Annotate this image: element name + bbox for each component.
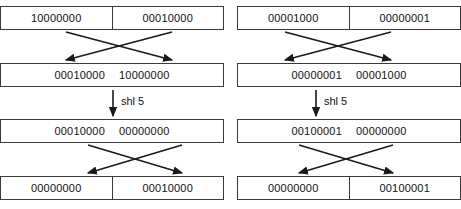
- byte-cell: 00100001: [349, 177, 461, 199]
- byte-word: 00000000: [119, 125, 170, 137]
- byte-cell: 10000000: [1, 7, 112, 29]
- row-after-shift: 00010000 00000000 00100001 00000000: [0, 119, 461, 143]
- byte-cell: 00010000: [112, 7, 224, 29]
- swap-arrows-left-1: [66, 32, 172, 60]
- bit-pattern-diagram: 10000000 00010000 00001000 00000001 0001…: [0, 0, 461, 209]
- byte-word: 00010000: [54, 125, 105, 137]
- row-initial-operands: 10000000 00010000 00001000 00000001: [0, 6, 461, 30]
- left-group-row4: 00000000 00010000: [0, 176, 224, 200]
- swap-arrows-right-2: [299, 145, 393, 173]
- byte-cell: 00000000: [1, 177, 112, 199]
- swap-arrows-right-1: [285, 32, 391, 60]
- swap-arrows-left-2: [88, 145, 182, 173]
- byte-word: 00010000: [54, 69, 105, 81]
- byte-word: 00001000: [356, 69, 407, 81]
- byte-word: 10000000: [119, 69, 170, 81]
- left-group-row1: 10000000 00010000: [0, 6, 224, 30]
- byte-word: 00100001: [291, 125, 342, 137]
- shl-label-left: shl 5: [121, 95, 144, 107]
- left-group-row2: 00010000 10000000: [0, 63, 224, 87]
- right-group-row2: 00000001 00001000: [237, 63, 461, 87]
- right-group-row1: 00001000 00000001: [237, 6, 461, 30]
- shl-label-right: shl 5: [324, 95, 347, 107]
- byte-word: 00000001: [291, 69, 342, 81]
- byte-cell: 00001000: [238, 7, 349, 29]
- byte-cell: 00000001: [349, 7, 461, 29]
- byte-word: 00000000: [356, 125, 407, 137]
- byte-cell: 00010000: [112, 177, 224, 199]
- row-after-swap-2: 00000000 00010000 00000000 00100001: [0, 176, 461, 200]
- right-group-row4: 00000000 00100001: [237, 176, 461, 200]
- row-after-swap-1: 00010000 10000000 00000001 00001000: [0, 63, 461, 87]
- left-group-row3: 00010000 00000000: [0, 119, 224, 143]
- right-group-row3: 00100001 00000000: [237, 119, 461, 143]
- byte-cell: 00000000: [238, 177, 349, 199]
